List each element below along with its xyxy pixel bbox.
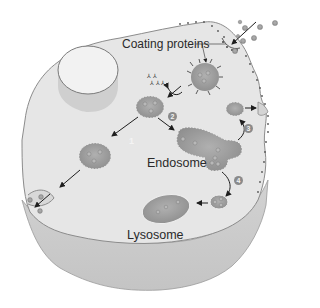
step-1-badge: 1: [127, 137, 136, 146]
nucleus: [58, 46, 118, 112]
lysosome-bound-vesicle: [210, 195, 228, 209]
uncoated-vesicle: [136, 96, 164, 118]
transport-vesicle-1: [79, 143, 111, 169]
step-3-badge: 3: [244, 124, 253, 133]
svg-text:⅄ ⅄ ⅄: ⅄ ⅄ ⅄: [149, 80, 165, 86]
label-endosome: Endosome: [147, 156, 207, 170]
label-lysosome: Lysosome: [127, 228, 184, 242]
label-coating-proteins: Coating proteins: [122, 37, 209, 51]
step-4-badge: 4: [234, 176, 243, 185]
svg-text:⅄ ⅄: ⅄ ⅄: [146, 73, 157, 79]
step-2-badge: 2: [168, 112, 177, 121]
recycling-vesicle: [226, 102, 244, 116]
